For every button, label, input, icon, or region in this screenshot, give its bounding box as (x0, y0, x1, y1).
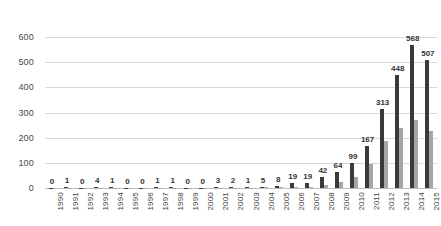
bar-group: 3 (211, 30, 226, 188)
y-tick-label: 0 (29, 184, 34, 193)
bar-value-label: 0 (185, 178, 189, 186)
bar-group: 1 (151, 30, 166, 188)
x-tick-label: 2015 (433, 192, 441, 211)
y-tick-label: 400 (18, 83, 34, 92)
x-category: 2009 (331, 190, 346, 226)
bar-value-label: 1 (110, 177, 114, 185)
bar-light (188, 188, 192, 189)
plot-area: 0104100110032158191942649916731344856850… (45, 30, 437, 188)
bar-light (233, 188, 237, 189)
x-category: 1995 (120, 190, 135, 226)
bar-group: 4 (90, 30, 105, 188)
x-category: 2004 (256, 190, 271, 226)
bar-light (53, 188, 57, 189)
bar-series-group: 0104100110032158191942649916731344856850… (45, 30, 437, 188)
bar-light (128, 188, 132, 189)
bar-group: 19 (286, 30, 301, 188)
x-category: 1996 (135, 190, 150, 226)
bar-light (98, 188, 102, 189)
bar-group: 448 (392, 30, 407, 188)
x-category: 2002 (226, 190, 241, 226)
bar-light (218, 188, 222, 189)
y-tick-label: 500 (18, 58, 34, 67)
bar-light (309, 187, 313, 188)
bar-light (113, 188, 117, 189)
bar-value-label: 0 (80, 178, 84, 186)
bar-light (339, 182, 343, 188)
x-category: 2013 (392, 190, 407, 226)
y-axis-tick-labels: 0100200300400500600 (0, 30, 40, 188)
y-tick-label: 300 (18, 108, 34, 117)
x-category: 1998 (166, 190, 181, 226)
y-tick-label: 100 (18, 158, 34, 167)
bar-light (203, 188, 207, 189)
bar-group: 8 (271, 30, 286, 188)
x-category: 2008 (316, 190, 331, 226)
bar-group: 1 (166, 30, 181, 188)
x-category: 1997 (151, 190, 166, 226)
x-category: 1992 (75, 190, 90, 226)
bar-light (294, 187, 298, 188)
bar-value-label: 8 (276, 176, 280, 184)
bar-value-label: 0 (125, 178, 129, 186)
bar-light (384, 141, 388, 188)
x-category: 2001 (211, 190, 226, 226)
bar-group: 64 (331, 30, 346, 188)
bar-value-label: 0 (201, 178, 205, 186)
x-category: 2012 (377, 190, 392, 226)
x-category: 1991 (60, 190, 75, 226)
x-category: 2005 (271, 190, 286, 226)
x-category: 1999 (181, 190, 196, 226)
bar-group: 1 (105, 30, 120, 188)
bar-group: 2 (226, 30, 241, 188)
bar-light (354, 177, 358, 188)
bar-group: 1 (60, 30, 75, 188)
bar-value-label: 1 (170, 177, 174, 185)
bar-light (83, 188, 87, 189)
bar-value-label: 507 (421, 50, 434, 58)
bar-group: 167 (362, 30, 377, 188)
bar-value-label: 5 (261, 177, 265, 185)
bar-value-label: 19 (288, 173, 297, 181)
bar-value-label: 19 (303, 173, 312, 181)
bar-value-label: 99 (349, 153, 358, 161)
bar-value-label: 1 (155, 177, 159, 185)
bar-group: 19 (301, 30, 316, 188)
x-category: 1994 (105, 190, 120, 226)
bar-light (143, 188, 147, 189)
bar-group: 507 (422, 30, 437, 188)
bar-value-label: 313 (376, 99, 389, 107)
bar-light (264, 187, 268, 188)
y-tick-label: 600 (18, 33, 34, 42)
bar-group: 568 (407, 30, 422, 188)
bar-group: 1 (241, 30, 256, 188)
bar-light (399, 128, 403, 188)
bar-light (279, 187, 283, 188)
gridline-0 (45, 188, 437, 189)
bar-light (414, 120, 418, 188)
bar-value-label: 568 (406, 35, 419, 43)
bar-value-label: 1 (65, 177, 69, 185)
bar-group: 0 (120, 30, 135, 188)
y-tick-label: 200 (18, 133, 34, 142)
bar-group: 42 (316, 30, 331, 188)
bar-light (68, 188, 72, 189)
x-category: 2010 (347, 190, 362, 226)
bar-light (369, 164, 373, 188)
bar-group: 0 (75, 30, 90, 188)
bar-light (249, 188, 253, 189)
x-category: 1990 (45, 190, 60, 226)
x-category: 2007 (301, 190, 316, 226)
bar-light (158, 188, 162, 189)
bar-light (429, 131, 433, 188)
x-category: 2000 (196, 190, 211, 226)
bar-group: 313 (377, 30, 392, 188)
bar-group: 99 (347, 30, 362, 188)
bar-value-label: 167 (361, 136, 374, 144)
bar-light (173, 188, 177, 189)
bar-value-label: 42 (318, 167, 327, 175)
bar-value-label: 448 (391, 65, 404, 73)
bar-value-label: 0 (50, 178, 54, 186)
bar-value-label: 2 (231, 177, 235, 185)
